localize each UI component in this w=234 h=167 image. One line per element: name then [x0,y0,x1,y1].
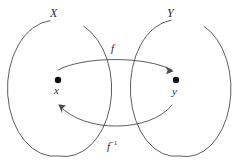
map-f-inverse-arrowhead [58,104,66,113]
map-label-f-text: f [111,42,114,54]
map-f-inverse-arrow [60,105,172,126]
element-label-y: y [172,86,177,97]
map-label-f: f [111,43,114,54]
set-x-ellipse [7,21,111,157]
function-inverse-diagram: X Y x y f f−1 [0,0,234,167]
set-label-x: X [50,7,57,19]
point-x [55,77,61,83]
set-y-ellipse [130,20,231,156]
element-label-x: x [54,85,59,96]
set-label-y: Y [167,7,174,19]
map-label-f-inverse-superscript: −1 [110,139,117,147]
map-f-arrow [58,60,172,71]
point-y [173,77,179,83]
map-label-f-inverse: f−1 [107,140,117,152]
